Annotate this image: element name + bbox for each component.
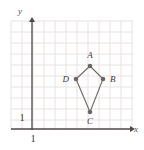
kite-plot-svg: ABCD xy11 bbox=[0, 0, 144, 150]
vertex-dots bbox=[74, 64, 106, 115]
vertex-dot-c bbox=[88, 110, 93, 115]
vertex-dot-d bbox=[74, 77, 79, 82]
vertex-label-c: C bbox=[87, 116, 94, 126]
vertex-labels: ABCD bbox=[62, 50, 117, 126]
y-axis-arrowhead bbox=[29, 17, 35, 22]
axis-lines bbox=[11, 17, 135, 132]
vertex-label-a: A bbox=[86, 50, 93, 60]
coordinate-grid-figure: ABCD xy11 bbox=[0, 0, 144, 150]
vertex-dot-a bbox=[88, 64, 93, 69]
vertex-label-b: B bbox=[110, 74, 116, 84]
vertex-dot-b bbox=[101, 77, 106, 82]
y-axis-unit-label: 1 bbox=[20, 113, 25, 123]
x-axis-unit-label: 1 bbox=[31, 134, 36, 144]
y-axis-label: y bbox=[17, 6, 22, 16]
x-axis-label: x bbox=[133, 124, 138, 134]
vertex-label-d: D bbox=[62, 74, 70, 84]
